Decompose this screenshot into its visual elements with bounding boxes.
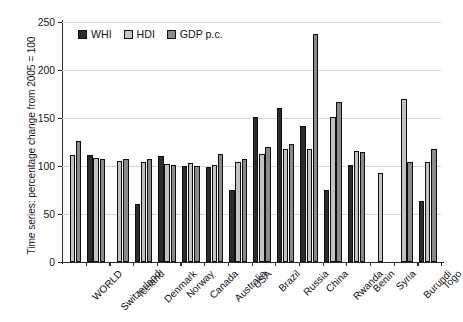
y-tick-label: 200 bbox=[38, 65, 55, 76]
x-tick-mark bbox=[109, 262, 110, 266]
y-tick-label: 50 bbox=[43, 209, 55, 220]
bar bbox=[336, 102, 341, 262]
x-axis-label: WORLD bbox=[90, 268, 124, 302]
bar bbox=[401, 99, 406, 262]
bar bbox=[147, 159, 152, 262]
bar bbox=[141, 162, 146, 262]
bar bbox=[360, 152, 365, 262]
bar bbox=[117, 161, 122, 262]
bar bbox=[182, 166, 187, 262]
bar bbox=[87, 155, 92, 262]
bar bbox=[235, 162, 240, 262]
bar bbox=[164, 164, 169, 262]
x-tick-mark bbox=[252, 262, 253, 266]
x-tick-mark bbox=[275, 262, 276, 266]
bar bbox=[218, 154, 223, 262]
x-tick-mark bbox=[180, 262, 181, 266]
bar bbox=[76, 141, 81, 262]
y-tick-mark bbox=[58, 166, 62, 167]
y-tick-label: 150 bbox=[38, 113, 55, 124]
gridline bbox=[62, 118, 441, 119]
bar bbox=[289, 144, 294, 262]
x-tick-mark bbox=[204, 262, 205, 266]
bar bbox=[158, 156, 163, 262]
y-axis-title: Time series: percentage change from 2005… bbox=[26, 16, 37, 276]
legend-item-gdp: GDP p.c. bbox=[167, 28, 223, 40]
bar bbox=[419, 201, 424, 262]
bar bbox=[300, 126, 305, 262]
legend-swatch-gdp-icon bbox=[167, 30, 176, 39]
bar bbox=[171, 165, 176, 262]
x-tick-mark bbox=[157, 262, 158, 266]
x-tick-mark bbox=[228, 262, 229, 266]
y-tick-mark bbox=[58, 118, 62, 119]
y-tick-mark bbox=[58, 22, 62, 23]
y-tick-mark bbox=[58, 262, 62, 263]
gridline bbox=[62, 22, 441, 23]
x-tick-mark bbox=[299, 262, 300, 266]
bar bbox=[277, 108, 282, 262]
bar bbox=[324, 190, 329, 262]
x-tick-mark bbox=[370, 262, 371, 266]
bar bbox=[307, 149, 312, 262]
bar bbox=[135, 204, 140, 262]
x-axis-label: Syria bbox=[394, 268, 418, 292]
chart-legend: WHIHDIGDP p.c. bbox=[78, 28, 223, 40]
x-tick-mark bbox=[417, 262, 418, 266]
bar bbox=[194, 166, 199, 262]
y-tick-mark bbox=[58, 214, 62, 215]
y-tick-label: 250 bbox=[38, 17, 55, 28]
plot-area: 050100150200250 bbox=[62, 22, 441, 262]
y-tick-label: 0 bbox=[49, 257, 55, 268]
bar bbox=[100, 159, 105, 262]
bar bbox=[431, 149, 436, 262]
x-tick-mark bbox=[323, 262, 324, 266]
bar bbox=[229, 190, 234, 262]
x-axis-label: Brazil bbox=[276, 268, 302, 294]
bar bbox=[330, 117, 335, 262]
bar bbox=[206, 167, 211, 262]
x-tick-mark bbox=[133, 262, 134, 266]
bar bbox=[242, 159, 247, 262]
legend-label: GDP p.c. bbox=[180, 28, 223, 40]
legend-item-hdi: HDI bbox=[124, 28, 155, 40]
bar-chart: Time series: percentage change from 2005… bbox=[0, 0, 463, 322]
bar bbox=[123, 159, 128, 262]
x-tick-mark bbox=[346, 262, 347, 266]
bar bbox=[259, 154, 264, 262]
bar bbox=[265, 147, 270, 262]
legend-label: HDI bbox=[137, 28, 155, 40]
bar bbox=[188, 163, 193, 262]
legend-label: WHI bbox=[91, 28, 112, 40]
y-tick-label: 100 bbox=[38, 161, 55, 172]
bar bbox=[253, 117, 258, 262]
x-tick-mark bbox=[441, 262, 442, 266]
bar bbox=[93, 158, 98, 262]
legend-item-whi: WHI bbox=[78, 28, 112, 40]
x-tick-mark bbox=[86, 262, 87, 266]
bar bbox=[378, 173, 383, 262]
bar bbox=[354, 151, 359, 262]
bar bbox=[407, 162, 412, 262]
bar bbox=[212, 165, 217, 262]
bar bbox=[348, 165, 353, 262]
bar bbox=[313, 34, 318, 262]
bar bbox=[70, 155, 75, 262]
legend-swatch-hdi-icon bbox=[124, 30, 133, 39]
bar bbox=[425, 162, 430, 262]
legend-swatch-whi-icon bbox=[78, 30, 87, 39]
bar bbox=[283, 149, 288, 262]
y-tick-mark bbox=[58, 70, 62, 71]
x-tick-mark bbox=[394, 262, 395, 266]
gridline bbox=[62, 70, 441, 71]
